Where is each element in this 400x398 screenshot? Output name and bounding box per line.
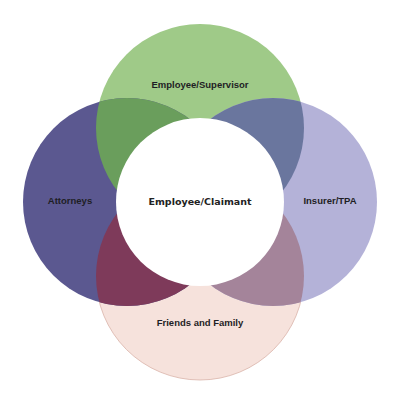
label-employee-claimant: Employee/Claimant <box>148 196 251 207</box>
venn-diagram: Employee/Supervisor Attorneys Insurer/TP… <box>0 0 400 398</box>
label-attorneys: Attorneys <box>48 195 92 206</box>
label-insurer-tpa: Insurer/TPA <box>303 195 356 206</box>
label-employee-supervisor: Employee/Supervisor <box>151 79 248 90</box>
label-friends-family: Friends and Family <box>157 317 244 328</box>
